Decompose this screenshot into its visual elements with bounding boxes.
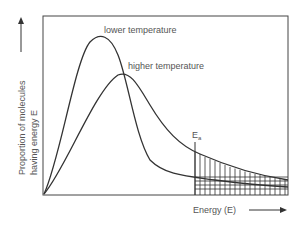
svg-text:having energy E: having energy E xyxy=(29,110,39,175)
plot-frame xyxy=(43,16,288,195)
svg-text:Proportion of molecules: Proportion of molecules xyxy=(17,80,27,175)
curve-higher-temperature xyxy=(44,74,288,194)
energy-distribution-diagram: lower temperature higher temperature Ea … xyxy=(0,0,303,226)
label-lower-temperature: lower temperature xyxy=(104,25,177,35)
hatch-vertical xyxy=(195,152,285,195)
y-axis-arrow-icon xyxy=(18,17,24,24)
label-ea: Ea xyxy=(192,130,202,141)
x-axis-arrow-icon xyxy=(280,207,287,213)
x-axis-label: Energy (E) xyxy=(193,205,236,215)
label-higher-temperature: higher temperature xyxy=(128,61,204,71)
y-axis-label: Proportion of molecules having energy E xyxy=(17,80,39,175)
